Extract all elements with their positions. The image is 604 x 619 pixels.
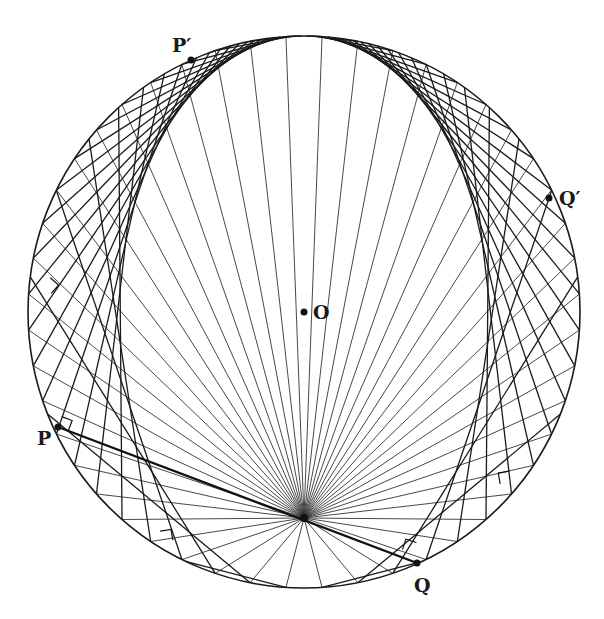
focal-ray: [304, 401, 565, 518]
focal-ray: [122, 518, 304, 520]
label-q-prime: Q′: [559, 187, 581, 209]
focal-ray: [304, 258, 575, 518]
focal-ray: [56, 190, 304, 518]
tangent-chord: [393, 277, 578, 574]
tangent-chord: [361, 42, 566, 223]
right-angle-icon: [50, 278, 58, 294]
tangent-chord: [43, 58, 197, 401]
focal-ray: [43, 401, 304, 518]
focus-point: [300, 514, 308, 522]
focal-ray: [182, 518, 304, 560]
right-angle-icon: [498, 471, 509, 484]
label-p-prime: P′: [172, 34, 191, 56]
ellipse-envelope-diagram: O P P′ Q Q′: [0, 0, 604, 619]
focal-ray: [75, 465, 304, 518]
tangent-chord: [96, 87, 143, 494]
chord-pq: [58, 427, 417, 563]
focal-ray: [304, 494, 512, 518]
tangent-chord: [399, 53, 575, 366]
tangent-chord: [378, 46, 580, 294]
focal-ray: [151, 83, 304, 518]
focal-ray: [304, 37, 322, 518]
focal-ray: [33, 258, 304, 518]
label-p: P: [37, 427, 51, 449]
focal-ray: [96, 494, 304, 518]
focal-ray: [29, 294, 304, 518]
focal-ray: [304, 190, 552, 518]
tangent-chord: [486, 108, 489, 520]
focal-ray: [286, 37, 304, 518]
focal-ray: [304, 518, 426, 560]
point-q: [414, 560, 421, 567]
focal-ray: [182, 64, 304, 518]
focal-ray: [304, 64, 426, 518]
focal-ray: [151, 518, 304, 541]
point-p-prime: [188, 57, 195, 64]
focal-ray: [304, 294, 579, 518]
point-p: [55, 424, 62, 431]
label-q: Q: [414, 574, 431, 596]
label-o: O: [313, 301, 330, 323]
focal-ray: [304, 518, 486, 520]
center-point: [301, 309, 308, 316]
tangent-chord: [322, 561, 422, 587]
point-q-prime: [546, 195, 553, 202]
tangent-chord: [186, 561, 286, 587]
right-angle-icon: [403, 539, 417, 549]
